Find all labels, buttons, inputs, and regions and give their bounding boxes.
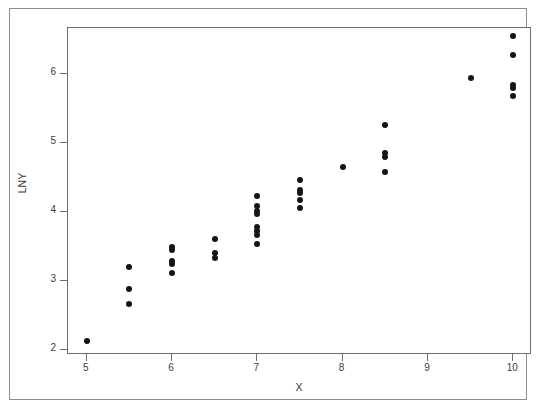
x-tick: 6 (171, 354, 172, 355)
data-point (297, 190, 303, 196)
data-point (254, 203, 260, 209)
data-point (382, 150, 388, 156)
x-tick: 8 (342, 354, 343, 355)
y-tick: 6 (10, 73, 67, 74)
y-tick: 4 (10, 211, 67, 212)
data-point (297, 187, 303, 193)
data-point (510, 52, 516, 58)
data-point (254, 228, 260, 234)
x-tick-label: 9 (413, 363, 441, 373)
data-point (510, 93, 516, 99)
y-tick-label: 3 (34, 274, 56, 284)
y-tick-label: 5 (34, 136, 56, 146)
x-tick-label: 7 (242, 363, 270, 373)
x-tick-mark (512, 354, 513, 361)
x-tick-mark (86, 354, 87, 361)
data-point (254, 208, 260, 214)
y-tick-label: 2 (34, 343, 56, 353)
data-point (382, 169, 388, 175)
data-point (510, 85, 516, 91)
data-point (254, 241, 260, 247)
x-tick-mark (171, 354, 172, 361)
data-point (297, 205, 303, 211)
y-tick: 3 (10, 280, 67, 281)
y-tick-mark (60, 142, 67, 143)
data-point (510, 82, 516, 88)
y-axis-label: LNY (16, 153, 28, 213)
data-point (212, 250, 218, 256)
data-point (169, 258, 175, 264)
y-tick-mark (60, 211, 67, 212)
x-tick: 7 (256, 354, 257, 355)
data-point (212, 255, 218, 261)
y-tick: 5 (10, 142, 67, 143)
data-point (212, 236, 218, 242)
x-tick-label: 6 (157, 363, 185, 373)
scatter-plot-figure: LNY X 234565678910 (0, 0, 537, 410)
data-point (297, 197, 303, 203)
data-point (254, 224, 260, 230)
data-point (510, 33, 516, 39)
data-point (297, 177, 303, 183)
x-tick-mark (342, 354, 343, 361)
figure-outer-frame: LNY X 234565678910 (9, 8, 527, 400)
data-point (169, 247, 175, 253)
data-point (254, 193, 260, 199)
x-tick-mark (427, 354, 428, 361)
data-point (254, 232, 260, 238)
y-tick-mark (60, 280, 67, 281)
x-tick-label: 5 (72, 363, 100, 373)
data-point (340, 164, 346, 170)
x-tick-label: 8 (328, 363, 356, 373)
y-tick: 2 (10, 349, 67, 350)
data-point (126, 301, 132, 307)
y-tick-label: 4 (34, 205, 56, 215)
data-point (126, 264, 132, 270)
data-point (382, 154, 388, 160)
data-point (169, 261, 175, 267)
y-tick-label: 6 (34, 67, 56, 77)
x-tick: 9 (427, 354, 428, 355)
y-tick-mark (60, 349, 67, 350)
data-point (254, 211, 260, 217)
plot-area (67, 27, 531, 354)
data-point (468, 75, 474, 81)
x-tick-mark (256, 354, 257, 361)
x-tick-label: 10 (498, 363, 526, 373)
data-point (84, 338, 90, 344)
x-tick: 10 (512, 354, 513, 355)
data-point (382, 122, 388, 128)
data-point (169, 270, 175, 276)
data-points-layer (68, 28, 530, 353)
data-point (169, 244, 175, 250)
data-point (126, 286, 132, 292)
y-tick-mark (60, 73, 67, 74)
x-axis-label: X (67, 381, 531, 393)
x-tick: 5 (86, 354, 87, 355)
